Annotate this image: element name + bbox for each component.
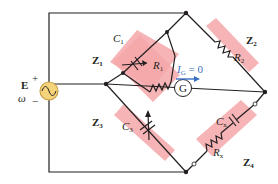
arm-z4-label: Z4 [243, 156, 254, 170]
node-bottom [184, 170, 188, 174]
source-frequency-label: ω [18, 92, 26, 104]
source-plus-sign: + [32, 72, 38, 84]
arm-z2-wiring [186, 13, 265, 92]
z1-junction-bottom [121, 71, 125, 75]
arm-z3-wiring [106, 84, 186, 172]
component-c1-label: C1 [113, 32, 124, 46]
z4-terminal-top [253, 102, 257, 106]
arm-z3-label: Z3 [92, 116, 103, 130]
node-top [184, 11, 188, 15]
galvanometer: G [175, 80, 192, 97]
galvanometer-label: G [179, 82, 187, 94]
source-voltage-label: E [21, 79, 28, 91]
arm-z2-label: Z2 [246, 34, 257, 48]
arm-z1-label: Z1 [92, 54, 103, 68]
node-right [263, 90, 267, 94]
source-minus-sign: − [32, 95, 38, 107]
ac-source [40, 82, 58, 100]
z1-junction-top [165, 30, 169, 34]
z4-terminal-bottom [192, 162, 196, 166]
galvanometer-current-label: IG = 0 [176, 63, 203, 77]
bridge-circuit-diagram: G E + ω − Z1 Z2 Z3 Z4 C1 R1 [0, 0, 278, 184]
component-rx-label: Rx [212, 146, 224, 160]
node-left [104, 82, 108, 86]
